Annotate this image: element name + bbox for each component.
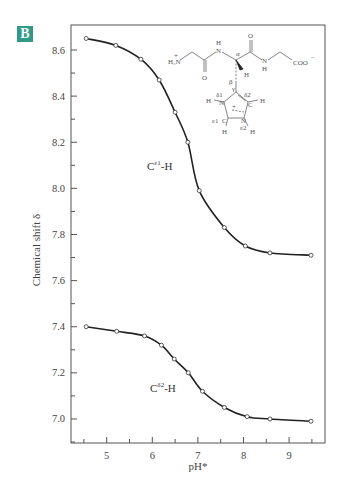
x-tick-label: 5: [104, 450, 109, 461]
data-point: [186, 140, 190, 144]
series-curve-1: [86, 327, 311, 422]
amine-charge: +: [174, 52, 178, 60]
data-point: [115, 329, 119, 333]
data-point: [84, 36, 88, 40]
delta1-h: H: [206, 97, 211, 105]
x-tick-label: 6: [150, 450, 155, 461]
x-tick-label: 9: [286, 450, 291, 461]
structure-labels: H₃N + H N O α H O N H COO − β γ H N δ1 δ…: [168, 32, 315, 136]
curve-label-0: Cε1-H: [147, 159, 172, 172]
delta2-label: δ2: [244, 91, 251, 99]
y-tick-label: 8.6: [52, 45, 65, 56]
y-tick-label: 7.2: [52, 367, 65, 378]
data-point: [197, 189, 201, 193]
data-point: [172, 357, 176, 361]
data-point: [159, 343, 163, 347]
data-point: [222, 226, 226, 230]
data-point: [309, 419, 313, 423]
delta2-h: H: [260, 97, 265, 105]
y-tick-label: 8.0: [52, 183, 65, 194]
data-point: [268, 251, 272, 255]
data-point: [268, 417, 272, 421]
titration-chart: 7.07.27.47.67.88.08.28.48.6 56789 Chemic…: [0, 0, 347, 490]
data-series: [84, 36, 313, 423]
y-tick-label: 7.0: [52, 413, 65, 424]
epsilon1-c: C: [222, 117, 227, 125]
plot-border: [71, 25, 325, 443]
data-point: [309, 253, 313, 257]
x-tick-label: 8: [241, 450, 246, 461]
y-axis: 7.07.27.47.67.88.08.28.48.6: [52, 45, 77, 443]
carboxylate-charge: −: [311, 54, 315, 62]
y-tick-label: 7.8: [52, 229, 65, 240]
delta1-label: δ1: [216, 91, 223, 99]
amide-h-1: H: [216, 39, 221, 47]
curve-labels: Cε1-HCδ2-H: [147, 159, 176, 394]
gamma-label: γ: [231, 85, 235, 93]
carbonyl-o-2: O: [248, 32, 253, 40]
x-axis: 56789: [84, 437, 312, 461]
epsilon1-h: H: [222, 128, 227, 136]
data-point: [114, 43, 118, 47]
delta1-n: N: [219, 99, 224, 107]
amide-n-1: N: [216, 47, 221, 55]
data-point: [186, 371, 190, 375]
curve-label-1: Cδ2-H: [150, 381, 176, 394]
data-point: [157, 78, 161, 82]
data-point: [243, 244, 247, 248]
y-tick-label: 7.6: [52, 275, 65, 286]
data-point: [173, 110, 177, 114]
y-tick-label: 8.4: [52, 91, 66, 102]
amide-h-2: H: [262, 65, 267, 73]
epsilon2-label: ε2: [240, 124, 247, 132]
x-axis-title: pH*: [189, 460, 208, 472]
y-tick-label: 8.2: [52, 137, 65, 148]
data-point: [222, 405, 226, 409]
amide-n-2: N: [262, 57, 267, 65]
carbonyl-o-1: O: [202, 74, 207, 82]
data-point: [200, 389, 204, 393]
y-axis-title: Chemical shift δ: [30, 214, 42, 286]
ring-charge: +: [232, 103, 236, 111]
data-point: [139, 57, 143, 61]
delta2-c: C: [248, 101, 253, 109]
plot-frame: [71, 25, 325, 443]
data-point: [84, 325, 88, 329]
y-tick-label: 7.4: [52, 321, 66, 332]
epsilon2-h: H: [250, 128, 255, 136]
alpha-h: H: [244, 71, 249, 79]
carboxylate-label: COO: [293, 59, 308, 67]
epsilon1-label: ε1: [212, 117, 219, 125]
data-point: [143, 334, 147, 338]
alpha-label: α: [236, 50, 240, 58]
series-curve-0: [86, 38, 311, 255]
data-point: [245, 415, 249, 419]
